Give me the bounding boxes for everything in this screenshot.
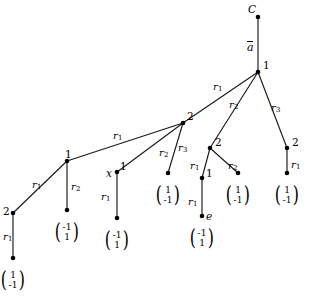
tree-node-lf5 <box>285 171 290 176</box>
leaf-vector-v-lf3: (1-1) <box>155 186 182 205</box>
tree-diagram-canvas: C12221112exar1r2r3r1r2r3r1r2r1r1r2r1r1r1… <box>0 0 317 305</box>
overbar-mark <box>247 41 254 42</box>
edge-label-e-n2b-n1b: r1 <box>190 161 199 172</box>
tree-edge-e-n2a-nx <box>117 123 183 172</box>
node-label-nx: 1 <box>120 161 127 172</box>
edge-label-subscript: 1 <box>296 163 300 171</box>
edge-label-e-nx-lf2: r1 <box>101 192 110 203</box>
node-label-ne: e <box>206 211 212 222</box>
edge-label-e-n2c-lf5: r1 <box>291 160 300 171</box>
edge-label-subscript: 1 <box>218 85 222 93</box>
tree-node-n2d <box>11 211 16 216</box>
leaf-vector-v-ne: (-11) <box>189 229 216 248</box>
edge-label-subscript: 2 <box>76 185 80 193</box>
node-label-n2a: 2 <box>187 111 194 122</box>
edge-label-e-n1a-lf1: r2 <box>71 182 80 193</box>
tree-node-lf1 <box>65 208 70 213</box>
edge-label-e-n2a-nx: r2 <box>159 148 168 159</box>
leaf-vector-v-lf6: (1-1) <box>0 271 26 290</box>
vector-components: -11 <box>197 229 207 248</box>
vector-component-bottom: 1 <box>114 241 120 251</box>
tree-node-lf2 <box>115 216 120 221</box>
vector-component-bottom: 1 <box>199 239 205 249</box>
tree-node-lf6 <box>11 256 16 261</box>
vector-component-bottom: -1 <box>164 196 173 206</box>
edge-label-e-root-n2c: r3 <box>271 103 280 114</box>
edge-label-subscript: 1 <box>106 195 110 203</box>
node-label-n2d: 2 <box>3 206 10 217</box>
vector-components: 1-1 <box>233 186 243 205</box>
edge-label-e-root-n2b: r2 <box>229 100 238 111</box>
node-label-n1b: 1 <box>206 168 213 179</box>
tree-node-lf3 <box>166 171 171 176</box>
vector-component-bottom: -1 <box>9 281 18 291</box>
edge-label-subscript: 1 <box>118 134 122 142</box>
tree-edge-e-root-n2a <box>183 72 258 123</box>
node-label-n2c: 2 <box>292 137 299 148</box>
tree-node-root <box>256 70 261 75</box>
edge-label-subscript: 2 <box>233 164 237 172</box>
tree-node-C <box>256 15 261 20</box>
node-label-x-marker: x <box>106 168 112 179</box>
leaf-vector-v-lf5: (1-1) <box>274 186 301 205</box>
vector-component-bottom: 1 <box>64 233 70 243</box>
tree-node-n2a <box>181 121 186 126</box>
node-label-n1a: 1 <box>65 149 72 160</box>
edge-label-e-n2d-lf6: r1 <box>3 232 12 243</box>
edge-label-e-C-root: a <box>247 42 317 53</box>
edge-label-e-n2b-lf4: r2 <box>228 161 237 172</box>
edge-label-e-n1b-ne: r1 <box>188 197 197 208</box>
edge-label-e-root-n2a: r1 <box>213 82 222 93</box>
vector-components: -11 <box>112 231 122 250</box>
edge-label-subscript: 1 <box>193 200 197 208</box>
leaf-vector-v-lf1: (-11) <box>54 223 81 242</box>
tree-node-n1b <box>200 176 205 181</box>
edge-label-subscript: 1 <box>8 235 12 243</box>
edge-label-subscript: 3 <box>276 106 280 114</box>
vector-components: -11 <box>62 223 72 242</box>
edge-label-e-n2a-lf3: r3 <box>178 143 187 154</box>
tree-node-ne <box>200 214 205 219</box>
edge-label-subscript: 1 <box>195 164 199 172</box>
edge-label-e-n1a-n2d: r1 <box>32 180 41 191</box>
node-label-C: C <box>248 4 256 15</box>
node-label-root: 1 <box>263 60 270 71</box>
edge-label-subscript: 3 <box>183 146 187 154</box>
tree-node-n2b <box>208 146 213 151</box>
vector-component-bottom: -1 <box>283 196 292 206</box>
edge-label-subscript: 1 <box>37 183 41 191</box>
edge-label-subscript: 2 <box>164 151 168 159</box>
leaf-vector-v-lf2: (-11) <box>104 231 131 250</box>
node-label-n2b: 2 <box>215 137 222 148</box>
edge-label-subscript: 2 <box>234 103 238 111</box>
leaf-vector-v-lf4: (1-1) <box>225 186 252 205</box>
vector-components: 1-1 <box>163 186 173 205</box>
edge-label-e-n2a-n1a: r1 <box>113 131 122 142</box>
tree-node-n2c <box>285 146 290 151</box>
vector-components: 1-1 <box>282 186 292 205</box>
tree-node-nx <box>115 170 120 175</box>
vector-components: 1-1 <box>8 271 18 290</box>
vector-component-bottom: -1 <box>234 196 243 206</box>
